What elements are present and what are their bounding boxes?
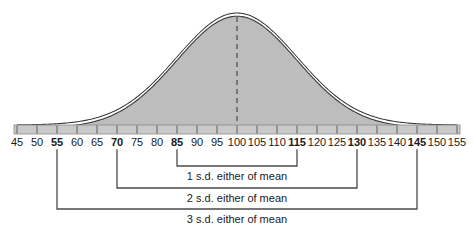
axis-tick-label: 105 (248, 136, 266, 148)
axis-tick-label: 85 (171, 136, 183, 148)
axis-tick-label: 45 (11, 136, 23, 148)
axis-tick-label: 70 (111, 136, 123, 148)
axis-tick-label: 145 (408, 136, 426, 148)
axis-tick-label: 115 (288, 136, 306, 148)
axis-group: 4550556065707580859095100105110115120125… (11, 125, 466, 148)
normal-distribution-figure: 4550556065707580859095100105110115120125… (0, 0, 474, 225)
axis-tick-label: 150 (428, 136, 446, 148)
distribution-chart-svg: 4550556065707580859095100105110115120125… (0, 0, 474, 225)
sd-bracket-caption-sd2: 2 s.d. either of mean (187, 192, 287, 204)
axis-tick-label: 80 (151, 136, 163, 148)
axis-tick-label: 135 (368, 136, 386, 148)
axis-tick-label: 95 (211, 136, 223, 148)
axis-tick-label: 65 (91, 136, 103, 148)
axis-tick-label: 75 (131, 136, 143, 148)
axis-tick-label: 90 (191, 136, 203, 148)
axis-tick-label: 120 (308, 136, 326, 148)
axis-tick-label: 125 (328, 136, 346, 148)
sd-bracket-caption-sd3: 3 s.d. either of mean (187, 213, 287, 225)
axis-tick-label: 60 (71, 136, 83, 148)
axis-tick-label: 110 (268, 136, 286, 148)
axis-tick-label: 55 (51, 136, 63, 148)
sd-bracket-sd1 (177, 150, 297, 166)
axis-tick-label: 140 (388, 136, 406, 148)
axis-tick-label: 155 (448, 136, 466, 148)
axis-tick-labels: 4550556065707580859095100105110115120125… (11, 136, 466, 148)
sd-bracket-caption-sd1: 1 s.d. either of mean (187, 170, 287, 182)
standard-deviation-brackets: 1 s.d. either of mean2 s.d. either of me… (57, 150, 417, 225)
axis-tick-label: 100 (228, 136, 246, 148)
axis-tick-label: 50 (31, 136, 43, 148)
axis-tick-label: 130 (348, 136, 366, 148)
